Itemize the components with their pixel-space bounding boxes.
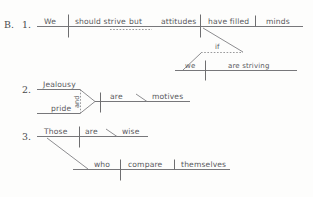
diagram-2-number: 2. bbox=[22, 84, 31, 95]
word-subordinate-predicate: are striving bbox=[228, 62, 270, 70]
subordinate-attach-diagonal bbox=[203, 28, 243, 52]
branch-converge-lower bbox=[80, 102, 95, 114]
word-relative-predicate: compare bbox=[128, 160, 163, 169]
word-predicate-2: have filled bbox=[208, 17, 249, 26]
predicate-adjective-slash bbox=[106, 129, 117, 137]
diagram-1-number: 1. bbox=[22, 19, 31, 30]
word-compound-subject-2: pride bbox=[51, 104, 71, 113]
word-complement-3: wise bbox=[122, 127, 140, 136]
worksheet-canvas: B. 1. We should strive but attitudes hav… bbox=[0, 0, 313, 197]
diagram-1-group: B. 1. We should strive but attitudes hav… bbox=[4, 15, 303, 81]
sentence-diagram-figure: B. 1. We should strive but attitudes hav… bbox=[0, 0, 313, 197]
branch-converge-upper bbox=[80, 90, 95, 102]
word-subject-3: Those bbox=[43, 127, 68, 136]
word-subordinate-subject: we bbox=[185, 62, 195, 70]
word-subject-2: attitudes bbox=[161, 17, 196, 26]
word-complement-2: motives bbox=[152, 92, 183, 101]
diagram-3-group: 3. Those are wise who compare themselves bbox=[22, 127, 230, 181]
word-subject-1: We bbox=[44, 17, 56, 26]
word-conjunction-and: and bbox=[73, 96, 81, 108]
word-predicate-1: should strive bbox=[75, 17, 126, 26]
diagram-2-group: 2. Jealousy pride and are motives bbox=[22, 80, 190, 114]
word-object-2: minds bbox=[266, 17, 290, 26]
relative-clause-connector bbox=[47, 138, 88, 169]
predicate-nominative-slash bbox=[136, 94, 147, 102]
word-conjunction-but: but bbox=[129, 17, 142, 26]
word-relative-object: themselves bbox=[181, 160, 226, 169]
word-relative-subject: who bbox=[94, 160, 110, 169]
section-label: B. bbox=[4, 19, 14, 30]
word-conjunction-if: if bbox=[215, 43, 220, 51]
word-predicate-4: are bbox=[85, 127, 98, 136]
diagram-3-number: 3. bbox=[22, 131, 31, 142]
word-compound-subject-1: Jealousy bbox=[42, 80, 76, 89]
word-predicate-3: are bbox=[110, 92, 123, 101]
